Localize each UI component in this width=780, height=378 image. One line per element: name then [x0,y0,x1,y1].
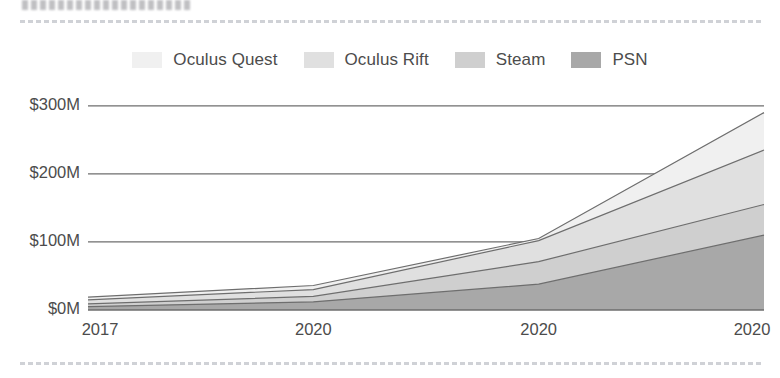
stacked-area-chart: $0M$100M$200M$300M 2017202020202020 [0,0,780,378]
series-areas [88,113,764,310]
y-tick-label: $0M [0,299,80,318]
x-tick-label: 2020 [273,320,353,339]
y-tick-label: $300M [0,95,80,114]
y-tick-label: $200M [0,163,80,182]
y-tick-label: $100M [0,231,80,250]
x-tick-label: 2020 [712,320,780,339]
x-tick-label: 2020 [499,320,579,339]
x-tick-label: 2017 [60,320,140,339]
